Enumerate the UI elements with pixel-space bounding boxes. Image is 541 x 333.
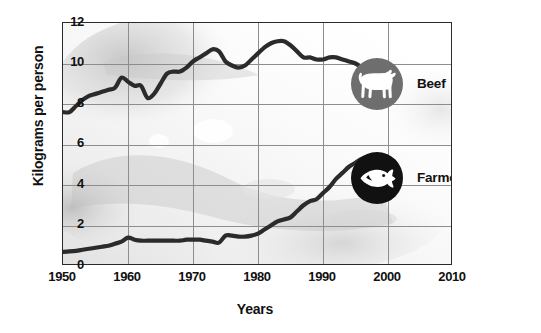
- y-tick-8: 8: [77, 96, 84, 109]
- y-tick-12: 12: [70, 15, 84, 28]
- series-lines: [63, 23, 452, 265]
- x-tick-1970: 1970: [162, 270, 222, 283]
- farmed-fish-line: [63, 156, 375, 251]
- x-tick-1980: 1980: [227, 270, 287, 283]
- x-tick-2010: 2010: [422, 270, 482, 283]
- beef-line: [63, 41, 375, 113]
- plot-area: Beef Farmed fish: [62, 22, 452, 265]
- legend-label-farmed-fish: Farmed fish: [417, 170, 452, 185]
- chart-container: Beef Farmed fish 12 10 8 6 4 2 0 1950 19…: [0, 0, 541, 333]
- cow-icon: [356, 68, 398, 100]
- legend-label-beef: Beef: [417, 76, 445, 91]
- x-tick-1990: 1990: [292, 270, 352, 283]
- x-tick-1950: 1950: [32, 270, 92, 283]
- y-tick-4: 4: [77, 177, 84, 190]
- y-tick-2: 2: [77, 217, 84, 230]
- x-tick-1960: 1960: [97, 270, 157, 283]
- fish-icon: [358, 167, 396, 189]
- x-axis-title: Years: [185, 301, 325, 317]
- x-tick-2000: 2000: [357, 270, 417, 283]
- y-tick-6: 6: [77, 136, 84, 149]
- y-tick-10: 10: [70, 55, 84, 68]
- y-axis-title: Kilograms per person: [30, 16, 46, 216]
